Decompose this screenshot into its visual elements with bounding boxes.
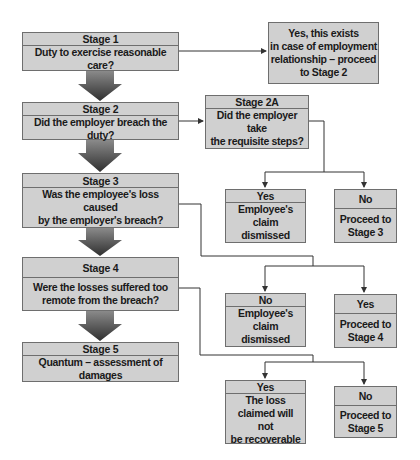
outcome-text: Proceed to Stage 5	[335, 406, 396, 437]
outcome-label: Yes	[226, 190, 305, 203]
outcome-text: Yes, this exists in case of employment r…	[270, 27, 377, 79]
stage-title: Stage 2A	[206, 96, 308, 109]
outcome-label: No	[226, 294, 305, 307]
stage2a-box: Stage 2A Did the employer take the requi…	[205, 95, 309, 149]
outcome-label: No	[335, 190, 396, 209]
stage2-box: Stage 2 Did the employer breach the duty…	[22, 102, 179, 140]
stage2a-yes-box: Yes Employee's claim dismissed	[225, 189, 306, 243]
stage-question: Were the losses suffered too remote from…	[23, 278, 178, 310]
outcome-label: Yes	[226, 381, 305, 394]
stage-question: Duty to exercise reasonable care?	[23, 46, 178, 72]
stage-question: Quantum – assessment of damages	[23, 356, 178, 382]
stage4-box: Stage 4 Were the losses suffered too rem…	[22, 257, 179, 311]
stage3-box: Stage 3 Was the employee's loss caused b…	[22, 173, 179, 228]
stage3-yes-box: Yes Proceed to Stage 4	[334, 294, 397, 348]
stage3-no-box: No Employee's claim dismissed	[225, 293, 306, 347]
outcome-text: Proceed to Stage 3	[335, 209, 396, 242]
outcome-text: Employee's claim dismissed	[226, 307, 305, 346]
outcome-text: Employee's claim dismissed	[226, 203, 305, 242]
stage-title: Stage 5	[23, 343, 178, 356]
outcome-text: Proceed to Stage 4	[335, 314, 396, 347]
stage2a-no-box: No Proceed to Stage 3	[334, 189, 397, 243]
stage-title: Stage 3	[23, 174, 178, 188]
outcome-text: The loss claimed will not be recoverable	[226, 394, 305, 446]
outcome-label: No	[335, 387, 396, 406]
stage4-yes-box: Yes The loss claimed will not be recover…	[225, 380, 306, 444]
stage-question: Did the employer breach the duty?	[23, 116, 178, 142]
stage5-box: Stage 5 Quantum – assessment of damages	[22, 342, 179, 382]
stage-question: Did the employer take the requisite step…	[206, 109, 308, 148]
stage1-box: Stage 1 Duty to exercise reasonable care…	[22, 32, 179, 71]
stage1-outcome-box: Yes, this exists in case of employment r…	[268, 22, 379, 84]
outcome-label: Yes	[335, 295, 396, 314]
stage-question: Was the employee's loss caused by the em…	[23, 188, 178, 227]
stage-title: Stage 2	[23, 103, 178, 116]
stage4-no-box: No Proceed to Stage 5	[334, 386, 397, 438]
stage-title: Stage 1	[23, 33, 178, 46]
stage-title: Stage 4	[23, 258, 178, 278]
